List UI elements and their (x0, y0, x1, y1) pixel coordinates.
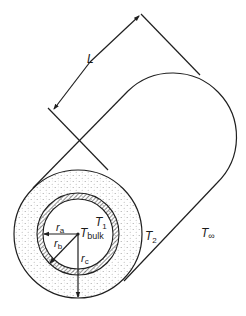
t-infinity-label: T∞ (201, 226, 215, 241)
length-dimension: L (48, 14, 200, 170)
dimension-line (54, 62, 90, 109)
length-label: L (87, 52, 94, 66)
extension-line-front (48, 108, 108, 170)
t2-label: T2 (145, 229, 157, 245)
pipe-insulation-diagram: L T1 Tbulk ra rb rc T2 T∞ (0, 0, 246, 316)
pipe-cross-section (14, 170, 142, 298)
extension-line-back (141, 14, 200, 75)
dimension-line (90, 16, 139, 62)
cylinder-back-end-arc (128, 73, 237, 183)
